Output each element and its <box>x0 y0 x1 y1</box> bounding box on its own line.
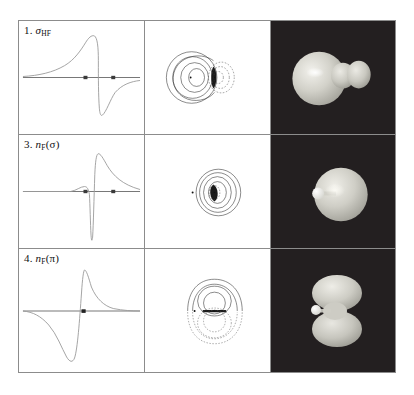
panel-1-profile-plot: 1. σHF <box>19 21 145 135</box>
nucleus-marker-f <box>111 190 115 193</box>
nucleus-marker-h <box>83 190 87 193</box>
panel-2-profile-plot: 3. nF(σ) <box>19 135 145 249</box>
nucleus-dot-h <box>192 192 194 194</box>
panel-1-contour-svg <box>145 21 270 134</box>
panel-2-contour-plot <box>145 135 271 249</box>
figure-grid: 1. σHF <box>18 20 396 373</box>
nucleus-dot-f <box>214 310 216 312</box>
hydrogen-atom <box>312 188 324 200</box>
panel-2-render-svg <box>271 135 395 248</box>
contour-positive-lobe <box>166 52 217 104</box>
panel-2-label: 3. nF(σ) <box>24 138 60 152</box>
specular-highlight <box>306 68 324 78</box>
panel-1-curve <box>23 36 140 116</box>
hydrogen-atom <box>311 305 321 315</box>
panel-1-contour-plot <box>145 21 271 135</box>
contour-lower-lobe <box>188 308 243 344</box>
lobe-small <box>347 61 371 89</box>
panel-1-label: 1. σHF <box>24 24 51 38</box>
contour-rings <box>196 169 241 216</box>
panel-2-plot-svg <box>19 135 144 248</box>
panel-1-index: 1. <box>24 24 33 36</box>
nucleus-marker-h <box>83 76 87 79</box>
specular-highlight <box>325 184 345 198</box>
panel-2-paren: (σ) <box>46 138 60 150</box>
panel-3-paren: (π) <box>46 252 59 264</box>
panel-2-curve <box>23 154 140 241</box>
panel-2-index: 3. <box>24 138 33 150</box>
panel-3-contour-plot <box>145 249 271 372</box>
nucleus-marker-f <box>111 76 115 79</box>
nucleus-marker-f <box>82 309 86 313</box>
panel-3-label: 4. nF(π) <box>24 252 59 266</box>
panel-3-curve <box>23 270 140 361</box>
panel-2-isosurface-render <box>271 135 395 249</box>
panel-3-render-svg <box>271 249 395 372</box>
panel-1-subscript: HF <box>41 29 51 38</box>
panel-3-index: 4. <box>24 252 33 264</box>
panel-3-contour-svg <box>145 249 270 372</box>
panel-2-contour-svg <box>145 135 270 248</box>
panel-1-isosurface-render <box>271 21 395 135</box>
nucleus-dot-h <box>214 77 216 79</box>
panel-3-plot-svg <box>19 249 144 372</box>
nucleus-dot-f <box>190 77 192 79</box>
panel-1-render-svg <box>271 21 395 134</box>
panel-1-plot-svg <box>19 21 144 134</box>
nucleus-dot-h <box>194 310 196 312</box>
nucleus-dot-f <box>214 192 216 194</box>
panel-3-profile-plot: 4. nF(π) <box>19 249 145 372</box>
panel-3-isosurface-render <box>271 249 395 372</box>
